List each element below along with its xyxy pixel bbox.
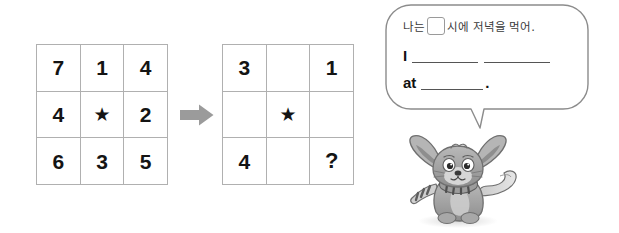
worksheet-canvas: 7 1 4 4 ★ 2 6 3 5 3 1 ★ 4 ? 나는 bbox=[0, 0, 619, 233]
number-grid-filled: 7 1 4 4 ★ 2 6 3 5 bbox=[36, 44, 168, 185]
grid-cell[interactable]: 4 bbox=[223, 138, 266, 184]
number-grid-blank[interactable]: 3 1 ★ 4 ? bbox=[222, 44, 354, 185]
answer-blank-3[interactable] bbox=[421, 77, 483, 90]
korean-text-before: 나는 bbox=[403, 18, 425, 34]
speech-bubble: 나는 시에 저녁을 먹어. I at . bbox=[383, 2, 595, 134]
grid-cell-star: ★ bbox=[267, 92, 310, 138]
grid-cell-question[interactable]: ? bbox=[310, 138, 353, 184]
english-line-2: at . bbox=[403, 70, 579, 90]
grid-cell: 3 bbox=[81, 138, 124, 184]
grid-cell: 4 bbox=[37, 92, 80, 138]
arrow-right-icon bbox=[180, 104, 214, 126]
korean-text-after: 시에 저녁을 먹어. bbox=[447, 18, 535, 34]
bubble-text-block: 나는 시에 저녁을 먹어. I at . bbox=[403, 16, 579, 90]
grid-cell-empty[interactable] bbox=[223, 92, 266, 138]
grid-cell: 2 bbox=[124, 92, 167, 138]
english-line-1: I bbox=[403, 43, 579, 63]
grid-cell[interactable]: 3 bbox=[223, 45, 266, 91]
hour-input-box[interactable] bbox=[427, 17, 445, 35]
grid-cell: 6 bbox=[37, 138, 80, 184]
grid-cell: 7 bbox=[37, 45, 80, 91]
grid-cell[interactable]: 1 bbox=[310, 45, 353, 91]
grid-cell-empty[interactable] bbox=[267, 45, 310, 91]
grid-cell-empty[interactable] bbox=[267, 138, 310, 184]
grid-cell-star: ★ bbox=[81, 92, 124, 138]
grid-cell: 1 bbox=[81, 45, 124, 91]
english-line-1-lead: I bbox=[403, 48, 407, 63]
answer-blank-1[interactable] bbox=[412, 50, 478, 63]
grid-cell-empty[interactable] bbox=[310, 92, 353, 138]
answer-blank-2[interactable] bbox=[484, 50, 550, 63]
korean-sentence: 나는 시에 저녁을 먹어. bbox=[403, 16, 579, 36]
sentence-period: . bbox=[485, 75, 489, 90]
fox-cat-character bbox=[396, 126, 524, 230]
english-line-2-lead: at bbox=[403, 75, 416, 90]
grid-cell: 4 bbox=[124, 45, 167, 91]
grid-cell: 5 bbox=[124, 138, 167, 184]
